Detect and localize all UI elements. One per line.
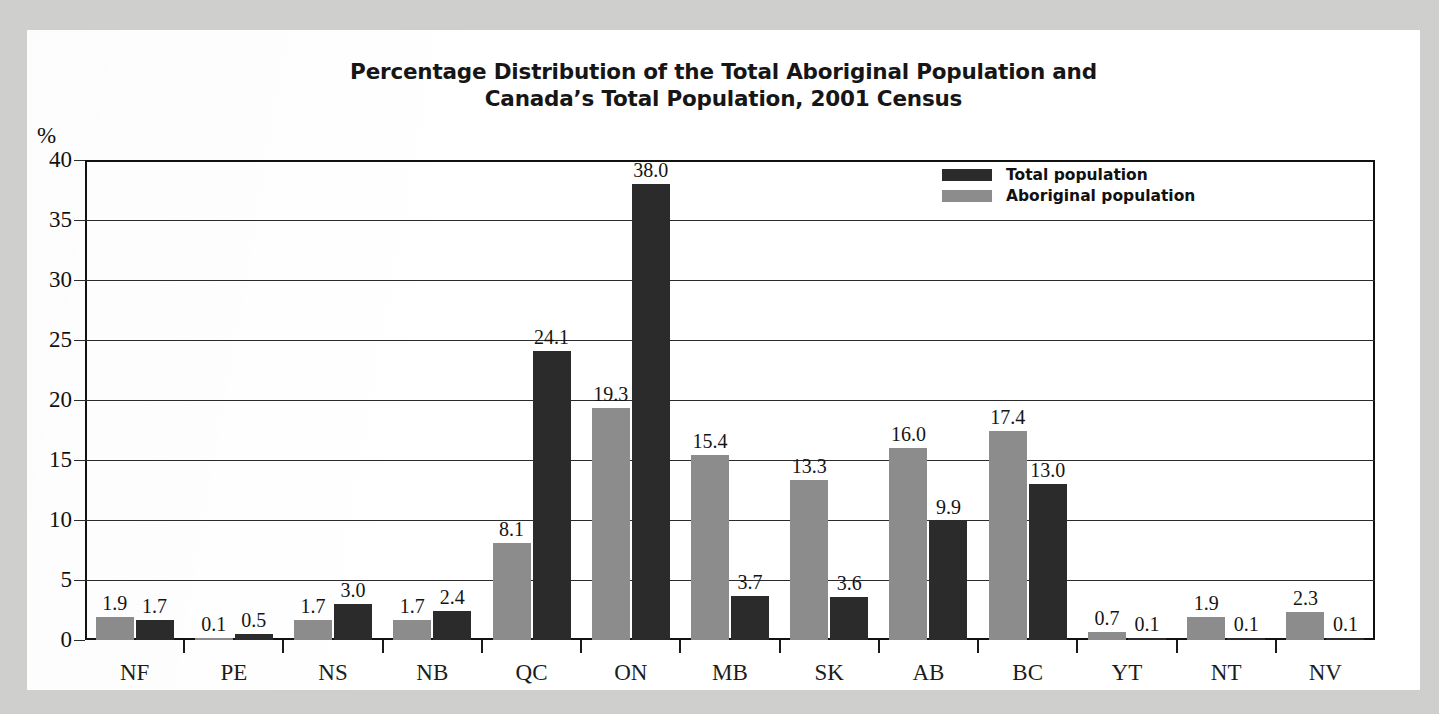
legend-item-total: Total population <box>942 165 1272 184</box>
bar-total-qc <box>533 351 571 640</box>
y-axis-unit-label: % <box>37 123 56 149</box>
bar-value-total-ab: 9.9 <box>918 497 978 517</box>
bar-value-total-nf: 1.7 <box>125 596 185 616</box>
y-axis-label: 10 <box>26 508 72 531</box>
y-axis-label: 20 <box>26 388 72 411</box>
gridline <box>85 280 1375 281</box>
bar-aboriginal-ab <box>889 448 927 640</box>
x-axis-tick <box>878 640 880 653</box>
bar-value-aboriginal-nv: 2.3 <box>1275 588 1335 608</box>
y-axis-tick <box>74 160 85 161</box>
x-axis-tick <box>679 640 681 653</box>
bar-value-total-mb: 3.7 <box>720 572 780 592</box>
x-axis-tick <box>779 640 781 653</box>
y-axis-tick <box>74 220 85 221</box>
bar-total-ns <box>334 604 372 640</box>
y-axis-label: 0 <box>26 628 72 651</box>
x-axis-label-mb: MB <box>680 660 780 686</box>
y-axis-tick <box>74 280 85 281</box>
y-axis-tick <box>74 400 85 401</box>
gridline <box>85 220 1375 221</box>
bar-value-aboriginal-sk: 13.3 <box>779 456 839 476</box>
chart-title-line-1: Percentage Distribution of the Total Abo… <box>27 58 1420 85</box>
x-axis-tick <box>1076 640 1078 653</box>
x-axis-tick <box>977 640 979 653</box>
y-axis-tick <box>74 580 85 581</box>
bar-value-total-yt: 0.1 <box>1117 614 1177 634</box>
gridline <box>85 520 1375 521</box>
bar-value-aboriginal-ab: 16.0 <box>878 424 938 444</box>
bar-value-total-ns: 3.0 <box>323 580 383 600</box>
y-axis-tick <box>74 640 85 641</box>
chart-page: Percentage Distribution of the Total Abo… <box>0 0 1439 714</box>
bar-value-total-nv: 0.1 <box>1315 614 1375 634</box>
bar-aboriginal-qc <box>493 543 531 640</box>
bar-aboriginal-ns <box>294 620 332 640</box>
x-axis-label-qc: QC <box>482 660 582 686</box>
bar-value-aboriginal-mb: 15.4 <box>680 431 740 451</box>
x-axis-label-ab: AB <box>878 660 978 686</box>
bar-value-total-on: 38.0 <box>621 160 681 180</box>
bar-value-total-bc: 13.0 <box>1018 460 1078 480</box>
bar-value-aboriginal-bc: 17.4 <box>978 407 1038 427</box>
legend-swatch-aboriginal <box>942 190 992 202</box>
bar-total-sk <box>830 597 868 640</box>
bar-aboriginal-nb <box>393 620 431 640</box>
legend-item-aboriginal: Aboriginal population <box>942 186 1272 205</box>
x-axis-tick <box>580 640 582 653</box>
bar-aboriginal-mb <box>691 455 729 640</box>
x-axis-label-nt: NT <box>1176 660 1276 686</box>
chart-title: Percentage Distribution of the Total Abo… <box>27 58 1420 112</box>
bar-total-ab <box>929 521 967 640</box>
bar-value-total-nb: 2.4 <box>422 587 482 607</box>
y-axis-label: 40 <box>26 148 72 171</box>
page-sheet: Percentage Distribution of the Total Abo… <box>27 30 1420 690</box>
bar-value-total-pe: 0.5 <box>224 610 284 630</box>
x-axis-label-on: ON <box>581 660 681 686</box>
y-axis-label: 5 <box>26 568 72 591</box>
legend-label-total: Total population <box>1006 166 1148 184</box>
bar-value-total-nt: 0.1 <box>1216 614 1276 634</box>
x-axis-tick <box>183 640 185 653</box>
bar-aboriginal-nf <box>96 617 134 640</box>
bar-value-total-qc: 24.1 <box>522 327 582 347</box>
bar-total-mb <box>731 596 769 640</box>
bar-aboriginal-pe <box>195 638 233 640</box>
x-axis-label-yt: YT <box>1077 660 1177 686</box>
gridline <box>85 400 1375 401</box>
x-axis-label-sk: SK <box>779 660 879 686</box>
y-axis-label: 25 <box>26 328 72 351</box>
chart-legend: Total populationAboriginal population <box>942 165 1272 207</box>
legend-label-aboriginal: Aboriginal population <box>1006 187 1195 205</box>
x-axis-label-nf: NF <box>85 660 185 686</box>
x-axis-tick <box>282 640 284 653</box>
bar-aboriginal-on <box>592 408 630 640</box>
plot-area: % 0510152025303540 NFPENSNBQCONMBSKABBCY… <box>85 160 1375 640</box>
bar-total-bc <box>1029 484 1067 640</box>
x-axis-label-bc: BC <box>978 660 1078 686</box>
y-axis-label: 15 <box>26 448 72 471</box>
bar-total-nb <box>433 611 471 640</box>
bar-total-pe <box>235 634 273 640</box>
legend-swatch-total <box>942 169 992 181</box>
bar-total-nf <box>136 620 174 640</box>
bar-value-aboriginal-nt: 1.9 <box>1176 593 1236 613</box>
bar-total-nt <box>1227 638 1265 640</box>
x-axis-label-nv: NV <box>1275 660 1375 686</box>
x-axis-tick <box>1275 640 1277 653</box>
gridline <box>85 460 1375 461</box>
y-axis-tick <box>74 520 85 521</box>
x-axis-tick <box>1176 640 1178 653</box>
y-axis-label: 30 <box>26 268 72 291</box>
y-axis-tick <box>74 340 85 341</box>
x-axis-tick <box>481 640 483 653</box>
chart-title-line-2: Canada’s Total Population, 2001 Census <box>27 85 1420 112</box>
bar-total-yt <box>1128 638 1166 640</box>
bar-aboriginal-sk <box>790 480 828 640</box>
y-axis-tick <box>74 460 85 461</box>
bar-total-nv <box>1326 638 1364 640</box>
x-axis-label-ns: NS <box>283 660 383 686</box>
bar-total-on <box>632 184 670 640</box>
bar-value-total-sk: 3.6 <box>819 573 879 593</box>
gridline <box>85 340 1375 341</box>
